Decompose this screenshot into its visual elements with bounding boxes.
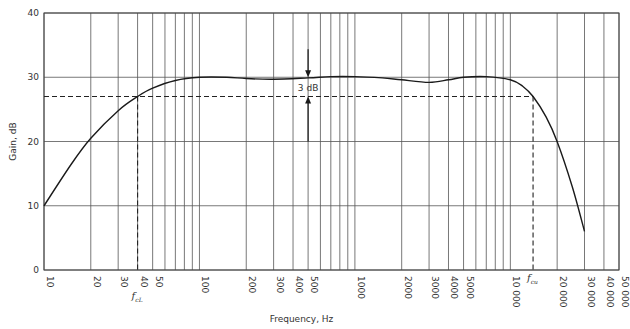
y-tick-label: 40 xyxy=(28,8,40,18)
lower-cutoff-label: fcL xyxy=(131,290,143,303)
x-tick-label: 20 000 xyxy=(558,276,568,308)
x-tick-label: 40 xyxy=(139,276,149,288)
x-tick-label: 30 xyxy=(119,276,129,288)
x-tick-label: 4000 xyxy=(449,276,459,299)
x-tick-label: 1000 xyxy=(356,276,366,299)
x-tick-label: 50 xyxy=(154,276,164,288)
y-tick-label: 30 xyxy=(28,72,40,82)
x-tick-label: 10 000 xyxy=(511,276,521,308)
gain-frequency-chart: 010203040 102030405010020030040050010002… xyxy=(0,0,630,329)
x-tick-label: 300 xyxy=(275,276,285,293)
x-tick-label: 3000 xyxy=(430,276,440,299)
x-tick-label: 500 xyxy=(309,276,319,293)
x-tick-label: 100 xyxy=(200,276,210,293)
cutoff-dashed-lines xyxy=(44,97,533,270)
y-tick-label: 20 xyxy=(28,137,40,147)
arrowhead-down-icon xyxy=(305,70,311,77)
x-tick-label: 5000 xyxy=(465,276,475,299)
x-tick-label: 200 xyxy=(247,276,257,293)
arrowhead-up-icon xyxy=(305,97,311,104)
x-tick-label: 30 000 xyxy=(586,276,596,308)
y-axis-title: Gain, dB xyxy=(8,122,18,160)
x-axis-title: Frequency, Hz xyxy=(270,314,334,324)
y-tick-label: 0 xyxy=(33,265,39,275)
x-tick-label: 40 000 xyxy=(605,276,615,308)
x-tick-label: 2000 xyxy=(403,276,413,299)
y-tick-label: 10 xyxy=(28,201,40,211)
x-tick-label: 10 xyxy=(45,276,55,288)
y-tick-labels: 010203040 xyxy=(28,8,40,275)
x-tick-label: 400 xyxy=(294,276,304,293)
x-tick-label: 50 000 xyxy=(620,276,630,308)
upper-cutoff-label: fcu xyxy=(526,272,538,285)
three-db-label: 3 dB xyxy=(298,83,318,93)
x-tick-label: 20 xyxy=(92,276,102,288)
